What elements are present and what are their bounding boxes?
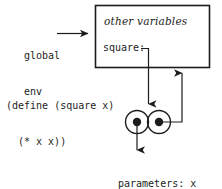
define-source-line1: (define (square x) <box>6 100 114 112</box>
square-binding-pointer-arrow <box>141 49 149 105</box>
other-variables-label: other variables <box>104 15 187 27</box>
define-source-code: (define (square x) (* x x)) <box>6 76 114 172</box>
procedure-environment-pointer-arrow <box>159 73 182 122</box>
define-source-line2: (* x x)) <box>6 136 114 148</box>
global-env-label-line1: global <box>24 50 60 62</box>
environment-diagram: global env other variables square: (defi… <box>0 0 222 189</box>
procedure-detail-labels: parameters: x body: (* x x) <box>118 154 196 189</box>
parameters-label: parameters: x <box>118 178 196 189</box>
square-binding-label: square: <box>103 42 145 54</box>
